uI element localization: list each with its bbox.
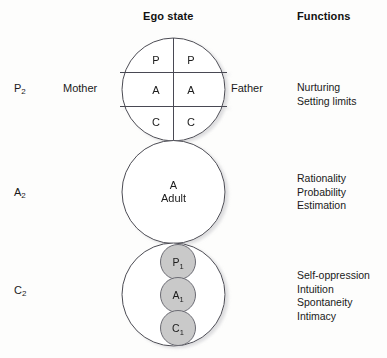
adult-label-a: A	[170, 179, 178, 191]
parent-cell-left-p: P	[152, 54, 159, 66]
adult-label-word: Adult	[161, 192, 186, 204]
adult-circle-group: A Adult	[122, 141, 225, 244]
parent-circle-group: P P A A C C	[120, 38, 227, 141]
ego-state-circles: P P A A C C A Adult P1 A1 C1	[0, 0, 387, 358]
child-circle-group: P1 A1 C1	[122, 243, 225, 346]
parent-cell-right-c: C	[187, 116, 195, 128]
parent-cell-right-p: P	[187, 54, 194, 66]
ego-state-diagram: Ego state Functions P2 A2 C2 Mother Fath…	[0, 0, 387, 358]
parent-cell-right-a: A	[187, 84, 195, 96]
parent-cell-left-c: C	[152, 116, 160, 128]
parent-cell-left-a: A	[152, 84, 160, 96]
